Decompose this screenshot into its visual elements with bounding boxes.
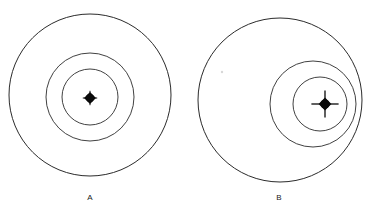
panel-a-center-marker [83,91,97,105]
panel-a-label: A [87,193,93,202]
panel-b-center-marker [311,90,338,117]
two-panel-circle-diagram: A B [0,0,372,210]
panel-b-marker-dot [320,99,329,108]
panel-a-marker-dot [86,94,94,102]
panel-b-paper-speck [221,71,223,73]
panel-b-label: B [276,193,282,202]
panel-a: A [9,14,171,202]
panel-b-outer-circle [198,18,362,182]
figure-container: A B [0,0,372,210]
panel-b: B [198,18,362,202]
